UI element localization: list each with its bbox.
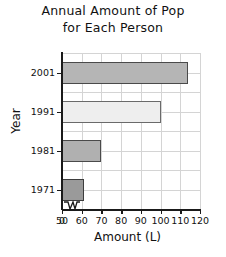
chart-title-line-1: Annual Amount of Pop: [0, 2, 226, 19]
y-tick-mark: [57, 190, 62, 191]
bar-chart: Annual Amount of Pop for Each Person 050…: [0, 0, 226, 257]
y-tick-label-2001: 2001: [0, 67, 55, 78]
bar-1991: [62, 101, 161, 123]
gridline-vertical: [200, 53, 201, 209]
x-tick-mark: [141, 209, 142, 214]
axis-break-icon: [64, 200, 80, 212]
chart-title-line-2: for Each Person: [0, 19, 226, 36]
x-tick-mark: [62, 209, 63, 214]
x-tick-mark: [161, 209, 162, 214]
x-tick-label: 120: [189, 215, 211, 226]
x-tick-label: 90: [130, 215, 152, 226]
x-tick-label: 110: [169, 215, 191, 226]
x-tick-mark: [180, 209, 181, 214]
x-tick-label: 60: [71, 215, 93, 226]
y-tick-mark: [57, 112, 62, 113]
y-axis-title: Year: [9, 91, 23, 151]
x-tick-label: 100: [150, 215, 172, 226]
bar-1971: [62, 179, 84, 201]
gridline-horizontal: [62, 92, 200, 93]
y-tick-mark: [57, 73, 62, 74]
gridline-horizontal: [62, 131, 200, 132]
y-axis-line: [61, 52, 63, 210]
bar-1981: [62, 140, 101, 162]
gridline-horizontal: [62, 53, 200, 54]
bar-2001: [62, 62, 188, 84]
x-tick-label: 70: [90, 215, 112, 226]
x-tick-mark: [121, 209, 122, 214]
chart-title: Annual Amount of Pop for Each Person: [0, 2, 226, 36]
y-tick-mark: [57, 151, 62, 152]
y-tick-label-1971: 1971: [0, 184, 55, 195]
x-axis-title: Amount (L): [40, 230, 215, 244]
x-tick-mark: [101, 209, 102, 214]
plot-area: [62, 53, 200, 209]
x-tick-mark: [200, 209, 201, 214]
x-tick-mark: [82, 209, 83, 214]
x-tick-label: 50: [51, 215, 73, 226]
x-tick-label: 80: [110, 215, 132, 226]
gridline-horizontal: [62, 170, 200, 171]
